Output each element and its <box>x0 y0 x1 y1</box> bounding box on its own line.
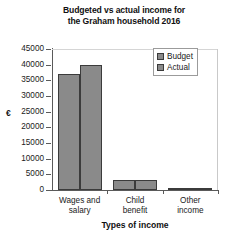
x-axis-category-label: Wages andsalary <box>49 196 111 215</box>
y-axis-tick <box>46 112 51 113</box>
y-axis-tick <box>46 96 51 97</box>
legend-swatch-icon-actual <box>157 64 164 71</box>
x-axis-category-label: Otherincome <box>159 196 221 215</box>
legend-label-budget: Budget <box>167 52 193 61</box>
x-axis-title: Types of income <box>52 220 218 230</box>
x-axis-category-label-line: salary <box>49 206 111 216</box>
x-axis-tick <box>218 190 219 194</box>
bar-actual-1[interactable] <box>135 180 157 190</box>
bar-budget-1[interactable] <box>113 180 135 190</box>
y-axis-tick-label: 30000 <box>4 92 44 100</box>
y-axis-tick-label: 15000 <box>4 139 44 147</box>
chart-title-line-1: Budgeted vs actual income for <box>28 5 220 16</box>
bar-budget-0[interactable] <box>58 74 80 190</box>
legend-item-actual[interactable]: Actual <box>157 62 193 73</box>
y-axis-tick <box>46 159 51 160</box>
chart-legend: Budget Actual <box>153 48 198 76</box>
bar-actual-2[interactable] <box>190 188 212 191</box>
y-axis-tick-label: 20000 <box>4 123 44 131</box>
chart-title-line-2: the Graham household 2016 <box>28 16 220 27</box>
x-axis-category-label-line: benefit <box>104 206 166 216</box>
legend-item-budget[interactable]: Budget <box>157 51 193 62</box>
y-axis-tick <box>46 80 51 81</box>
x-axis-category-label-line: Wages and <box>49 196 111 206</box>
y-axis-tick <box>46 65 51 66</box>
y-axis-tick <box>46 143 51 144</box>
x-axis-tick <box>163 190 164 194</box>
bar-budget-2[interactable] <box>168 188 190 190</box>
y-axis-tick-label: 35000 <box>4 76 44 84</box>
y-axis-tick <box>46 174 51 175</box>
y-axis-tick <box>46 127 51 128</box>
y-axis-tick <box>46 190 51 191</box>
y-axis-tick-label: 40000 <box>4 61 44 69</box>
legend-swatch-icon-budget <box>157 53 164 60</box>
x-axis-category-label-line: Other <box>159 196 221 206</box>
x-axis-category-label-line: Child <box>104 196 166 206</box>
bar-chart: Budgeted vs actual income for the Graham… <box>0 0 225 238</box>
x-axis-tick <box>107 190 108 194</box>
y-axis-tick <box>46 49 51 50</box>
x-axis-category-label-line: income <box>159 206 221 216</box>
legend-label-actual: Actual <box>167 63 190 72</box>
y-axis-tick-label: 5000 <box>4 170 44 178</box>
x-axis-category-label: Childbenefit <box>104 196 166 215</box>
chart-title: Budgeted vs actual income for the Graham… <box>28 5 220 27</box>
y-axis-tick-label: 10000 <box>4 155 44 163</box>
y-axis-tick-label: 25000 <box>4 108 44 116</box>
y-axis-tick-label: 0 <box>4 186 44 194</box>
y-axis-tick-label: 45000 <box>4 45 44 53</box>
bar-actual-0[interactable] <box>80 65 102 190</box>
